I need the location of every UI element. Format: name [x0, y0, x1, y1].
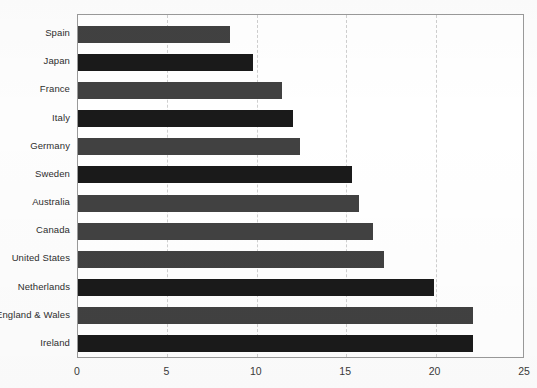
bar: [78, 110, 293, 127]
bar: [78, 195, 359, 212]
bar: [78, 82, 282, 99]
bar-fill: [78, 82, 282, 99]
bar: [78, 166, 352, 183]
bar: [78, 335, 473, 352]
bar-fill: [78, 195, 359, 212]
x-tick-label: 20: [429, 365, 441, 377]
x-tick-label: 10: [250, 365, 262, 377]
category-label: Canada: [36, 225, 70, 235]
category-label: Japan: [44, 56, 70, 66]
bar: [78, 307, 473, 324]
category-label: England & Wales: [0, 310, 70, 320]
bar: [78, 138, 300, 155]
category-label: France: [40, 84, 70, 94]
category-label: Netherlands: [18, 282, 70, 292]
x-tick-label: 25: [518, 365, 530, 377]
bar-chart: SpainJapanFranceItalyGermanySwedenAustra…: [0, 0, 537, 388]
plot-area: [77, 14, 524, 358]
bar-fill: [78, 251, 384, 268]
x-tick-label: 15: [339, 365, 351, 377]
bar: [78, 279, 434, 296]
category-label: Spain: [45, 28, 70, 38]
bar: [78, 54, 253, 71]
category-label: Germany: [30, 141, 70, 151]
x-tick-label: 5: [163, 365, 169, 377]
bar-fill: [78, 279, 434, 296]
bar-fill: [78, 110, 293, 127]
bar: [78, 223, 373, 240]
bar-fill: [78, 335, 473, 352]
category-label: Australia: [32, 197, 70, 207]
category-label: United States: [12, 253, 70, 263]
bar-fill: [78, 54, 253, 71]
category-label: Sweden: [35, 169, 70, 179]
bar-fill: [78, 223, 373, 240]
bar-fill: [78, 26, 230, 43]
bar-fill: [78, 166, 352, 183]
bar: [78, 251, 384, 268]
bar-fill: [78, 307, 473, 324]
category-label: Ireland: [40, 338, 70, 348]
bar-fill: [78, 138, 300, 155]
bars-layer: [78, 15, 523, 357]
x-tick-label: 0: [74, 365, 80, 377]
category-label: Italy: [52, 113, 70, 123]
bar: [78, 26, 230, 43]
